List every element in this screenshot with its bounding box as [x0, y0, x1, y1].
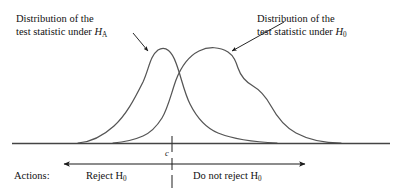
label-ha-subscript: A — [102, 30, 107, 38]
label-h0-line2: test statistic under H0 — [257, 26, 347, 41]
hypothesis-test-figure: Distribution of the test statistic under… — [0, 0, 403, 195]
reject-label-subscript: 0 — [123, 175, 127, 183]
reject-label-prefix: Reject — [86, 170, 115, 181]
label-h0-subscript: 0 — [343, 30, 347, 38]
distribution-curve-h0 — [113, 48, 341, 143]
leader-arrow-ha — [133, 33, 148, 51]
label-ha-line1: Distribution of the — [16, 13, 107, 26]
label-distribution-h0: Distribution of the test statistic under… — [257, 13, 347, 41]
reject-region-label: Reject H0 — [86, 170, 127, 183]
label-ha-line2: test statistic under HA — [16, 26, 107, 41]
reject-label-symbol: H — [115, 170, 123, 181]
actions-row-label: Actions: — [14, 170, 50, 181]
label-h0-line1: Distribution of the — [257, 13, 347, 26]
distribution-curve-ha — [78, 48, 277, 143]
label-h0-symbol: H — [335, 26, 343, 37]
label-ha-symbol: H — [94, 26, 102, 37]
noreject-label-symbol: H — [250, 170, 258, 181]
noreject-label-subscript: 0 — [258, 175, 262, 183]
noreject-label-prefix: Do not reject — [193, 170, 250, 181]
label-distribution-ha: Distribution of the test statistic under… — [16, 13, 107, 41]
label-h0-line2-prefix: test statistic under — [257, 26, 335, 37]
label-ha-line2-prefix: test statistic under — [16, 26, 94, 37]
noreject-region-label: Do not reject H0 — [193, 170, 262, 183]
critical-value-label: c — [165, 148, 169, 158]
